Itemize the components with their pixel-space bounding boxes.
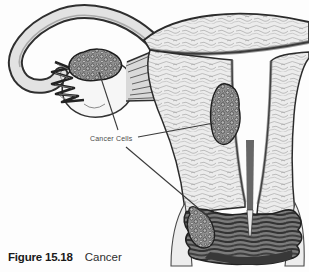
figure-caption: Figure 15.18Cancer	[8, 251, 122, 263]
uterus-wall-right-icon	[257, 52, 309, 214]
figure-15-18: Cancer Cells Figure 15.18Cancer	[0, 0, 309, 272]
ovarian-tumor-icon	[69, 49, 122, 81]
caption-number: Figure 15.18	[8, 251, 73, 263]
caption-title: Cancer	[85, 251, 122, 263]
cervical-canal-icon	[246, 140, 254, 216]
uterus-cancer-illustration	[0, 0, 309, 272]
endometrial-tumor-icon	[211, 84, 240, 145]
uterus-fundus-icon	[144, 14, 309, 54]
cancer-cells-label: Cancer Cells	[90, 135, 132, 142]
